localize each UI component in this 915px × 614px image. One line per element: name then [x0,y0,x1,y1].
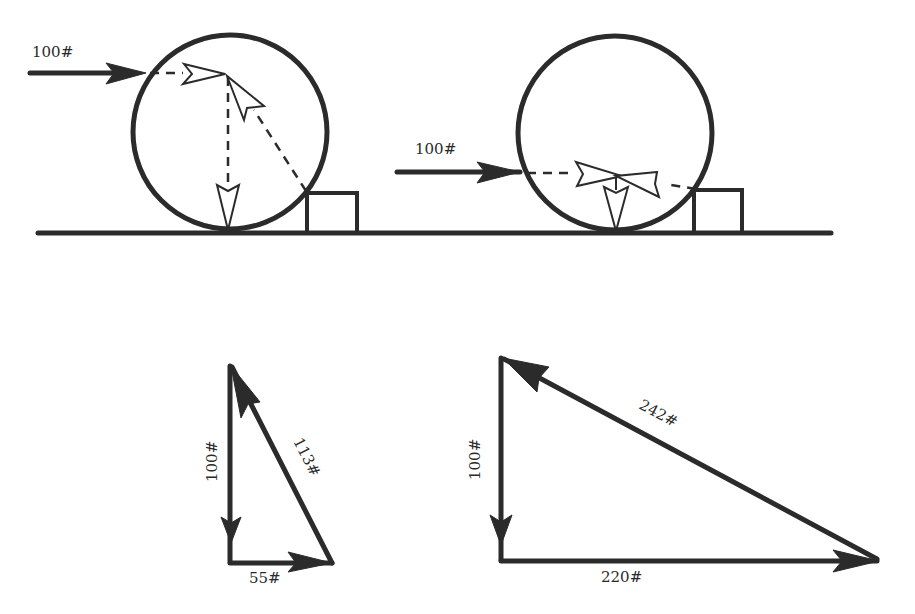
right-triangle-hypotenuse-label: 242# [636,396,681,431]
right-force-triangle: 100# 220# 242# [466,358,879,586]
right-reaction-dashed-line [665,184,696,189]
right-hollow-arrowhead-down-icon [604,187,628,231]
left-force-triangle: 100# 55# 113# [203,366,332,587]
left-step-block [307,193,357,233]
right-step-block [694,190,742,233]
left-hollow-arrowhead-down-icon [217,185,239,230]
right-triangle-horizontal-label: 220# [601,568,642,586]
left-applied-force-label: 100# [32,43,73,61]
right-wheel-case: 100# [397,36,742,233]
right-applied-force-label: 100# [415,140,456,158]
left-triangle-vertical-label: 100# [203,441,221,482]
left-triangle-hypotenuse-label: 113# [289,435,324,480]
right-triangle-vertical-label: 100# [466,439,484,480]
left-reaction-dashed-line [254,110,306,191]
left-wheel-case: 100# [30,35,357,233]
left-hollow-arrowhead-horizontal-icon [183,64,225,84]
left-hollow-arrowhead-diagonal-icon [227,76,264,120]
right-triangle-upleft-arrowhead-icon [503,358,549,392]
force-diagram: 100# 100# [0,0,915,614]
left-triangle-horizontal-label: 55# [249,569,281,587]
right-triangle-hypotenuse [504,359,877,559]
